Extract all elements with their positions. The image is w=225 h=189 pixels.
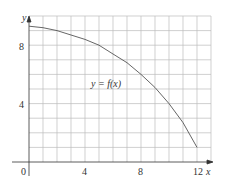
x-tick-12: 12 bbox=[193, 166, 203, 177]
curve-label: y = f(x) bbox=[90, 78, 122, 90]
y-tick-4: 4 bbox=[19, 99, 24, 110]
x-axis-label: x bbox=[205, 166, 211, 177]
chart: y x 0 4 8 12 4 8 y = f(x) bbox=[0, 0, 225, 189]
grid bbox=[29, 16, 211, 162]
x-axis-arrow-icon bbox=[207, 160, 213, 164]
origin-label: 0 bbox=[21, 166, 26, 177]
x-tick-8: 8 bbox=[138, 166, 143, 177]
y-tick-8: 8 bbox=[19, 41, 24, 52]
y-axis-label: y bbox=[21, 12, 27, 23]
y-axis-arrow-icon bbox=[27, 16, 31, 22]
x-tick-4: 4 bbox=[82, 166, 87, 177]
